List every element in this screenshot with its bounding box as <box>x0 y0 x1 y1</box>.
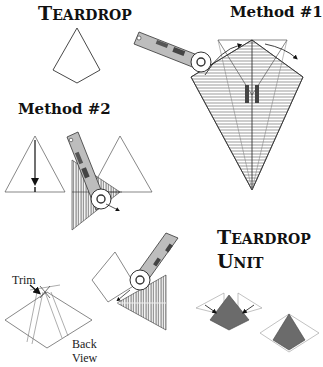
cutting-step-illustration <box>92 233 178 330</box>
method-2-illustration <box>5 132 152 230</box>
teardrop-unit-illustration <box>196 293 319 352</box>
back-view-illustration <box>5 285 92 348</box>
rotary-cutter-1 <box>134 32 211 72</box>
teardrop-shape <box>53 28 100 83</box>
